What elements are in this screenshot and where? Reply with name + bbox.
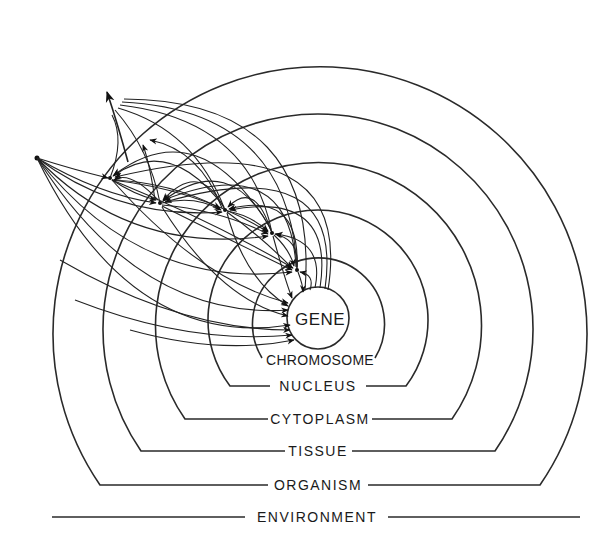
- arrow-nucleus-gene: [273, 236, 292, 298]
- chromosome-label: CHROMOSOME: [266, 352, 374, 368]
- arrow-cyto-organism: [113, 161, 224, 207]
- tissue-arc: [103, 114, 533, 451]
- cytoplasm-hub: [223, 208, 227, 212]
- arrow-nucleus-up: [120, 105, 272, 233]
- gene-level: GENE: [287, 287, 349, 349]
- arrow-low-3: [130, 330, 294, 346]
- gene-label: GENE: [295, 310, 345, 329]
- nucleus-label: NUCLEUS: [279, 378, 356, 394]
- tissue-label: TISSUE: [288, 443, 348, 459]
- cytoplasm-label: CYTOPLASM: [270, 411, 370, 427]
- nucleus-hub: [270, 231, 274, 235]
- arrow-low-1: [60, 260, 290, 330]
- organism-level: ORGANISM: [53, 67, 587, 493]
- tissue-hub: [158, 201, 162, 205]
- levels-diagram: ENVIRONMENT ORGANISM TISSUE CYTOPLASM NU…: [0, 0, 615, 555]
- environment-label: ENVIRONMENT: [257, 509, 377, 525]
- arrow-env-tissue: [37, 158, 156, 203]
- chromosome-hub: [295, 268, 299, 272]
- arrow-hub-cyto: [150, 140, 222, 208]
- organism-hub: [108, 176, 112, 180]
- organism-label: ORGANISM: [274, 477, 362, 493]
- arrow-chromo-gene: [298, 272, 303, 292]
- environment-level: ENVIRONMENT: [52, 509, 580, 525]
